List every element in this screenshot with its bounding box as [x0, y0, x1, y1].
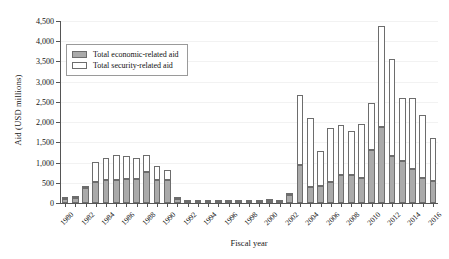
bar-segment-economic: [430, 181, 437, 203]
bar-2008: [348, 131, 355, 203]
bar-segment-economic: [286, 195, 293, 203]
bar-segment-security: [430, 138, 437, 181]
legend-swatch-security-icon: [72, 62, 87, 69]
y-tick-label: 1,500: [36, 138, 54, 147]
bar-2005: [317, 151, 324, 203]
y-tick-label: 1,000: [36, 158, 54, 167]
bar-segment-security: [297, 95, 304, 165]
bar-segment-security: [154, 166, 161, 180]
bar-segment-economic: [123, 179, 130, 203]
legend-item-economic: Total economic-related aid: [72, 49, 179, 60]
bar-segment-security: [133, 158, 140, 179]
bar-segment-economic: [297, 165, 304, 203]
bar-2015: [419, 115, 426, 203]
bar-2003: [297, 95, 304, 203]
bar-2004: [307, 118, 314, 203]
x-tick-label: 2016: [426, 210, 443, 227]
legend-label-security: Total security-related aid: [93, 61, 173, 70]
bar-2011: [378, 26, 385, 203]
bar-segment-economic: [113, 180, 120, 203]
bar-2012: [389, 59, 396, 203]
bar-1983: [92, 162, 99, 203]
x-tick-label: 1982: [79, 210, 96, 227]
bar-segment-economic: [338, 175, 345, 203]
x-axis-title: Fiscal year: [60, 238, 438, 248]
bar-segment-security: [389, 59, 396, 156]
bar-1989: [154, 166, 161, 203]
x-tick-label: 1990: [161, 210, 178, 227]
bar-segment-economic: [133, 179, 140, 203]
bar-segment-security: [143, 155, 150, 172]
y-axis-title: Aid (USD millions): [13, 30, 23, 190]
bar-segment-security: [327, 128, 334, 183]
bar-1985: [113, 155, 120, 203]
bar-2010: [368, 103, 375, 203]
bar-segment-security: [378, 26, 385, 127]
x-tick-label: 2002: [283, 210, 300, 227]
bar-segment-security: [348, 131, 355, 175]
bar-1984: [103, 158, 110, 203]
x-tick-label: 1998: [242, 210, 259, 227]
bar-segment-economic: [399, 161, 406, 203]
x-tick-label: 2014: [406, 210, 423, 227]
y-tick-label: 4,500: [36, 17, 54, 26]
legend-item-security: Total security-related aid: [72, 60, 179, 71]
x-tick-label: 2008: [344, 210, 361, 227]
bar-segment-security: [419, 115, 426, 177]
y-axis-line: [60, 21, 61, 203]
bar-segment-economic: [317, 186, 324, 203]
bar-2006: [327, 128, 334, 203]
legend-label-economic: Total economic-related aid: [93, 50, 179, 59]
legend-swatch-economic-icon: [72, 51, 87, 58]
bar-segment-economic: [358, 178, 365, 203]
y-tick-label: 0: [50, 199, 54, 208]
x-tick-label: 1994: [201, 210, 218, 227]
x-tick-label: 1986: [120, 210, 137, 227]
bar-segment-security: [92, 162, 99, 183]
x-tick-label: 1992: [181, 210, 198, 227]
bar-segment-security: [103, 158, 110, 179]
x-tick-label: 2012: [385, 210, 402, 227]
x-tick-label: 1988: [140, 210, 157, 227]
bar-segment-economic: [92, 182, 99, 203]
chart-legend: Total economic-related aid Total securit…: [66, 44, 188, 76]
bar-2007: [338, 125, 345, 203]
bar-segment-economic: [348, 175, 355, 203]
bar-2014: [409, 98, 416, 203]
bar-1987: [133, 158, 140, 203]
x-tick-label: 2006: [324, 210, 341, 227]
bar-segment-economic: [327, 182, 334, 203]
x-tick-label: 1984: [99, 210, 116, 227]
bar-segment-security: [164, 170, 171, 180]
x-tick-label: 1980: [58, 210, 75, 227]
bar-segment-security: [358, 124, 365, 178]
bar-segment-economic: [419, 178, 426, 203]
bar-segment-security: [338, 125, 345, 175]
bar-segment-security: [399, 98, 406, 160]
bar-segment-security: [409, 98, 416, 169]
bar-1990: [164, 170, 171, 203]
bar-segment-economic: [368, 150, 375, 203]
bar-2013: [399, 98, 406, 203]
bar-segment-economic: [164, 180, 171, 203]
bar-segment-economic: [409, 169, 416, 203]
x-tick-label: 2000: [263, 210, 280, 227]
bar-segment-economic: [154, 180, 161, 203]
bar-2016: [430, 138, 437, 203]
y-tick-label: 3,000: [36, 77, 54, 86]
x-axis-line: [60, 203, 438, 204]
chart-page: Aid (USD millions) 05001,0001,5002,0002,…: [0, 0, 449, 259]
x-tick-label: 1996: [222, 210, 239, 227]
bar-segment-economic: [389, 156, 396, 203]
bar-segment-economic: [143, 172, 150, 203]
y-tick-label: 2,000: [36, 118, 54, 127]
bar-segment-economic: [307, 187, 314, 203]
bar-segment-security: [123, 156, 130, 179]
bar-segment-economic: [378, 127, 385, 203]
bar-segment-security: [113, 155, 120, 179]
y-tick-label: 3,500: [36, 57, 54, 66]
bar-1982: [82, 188, 89, 203]
bar-segment-economic: [82, 188, 89, 203]
bar-segment-security: [317, 151, 324, 186]
bar-2009: [358, 124, 365, 203]
